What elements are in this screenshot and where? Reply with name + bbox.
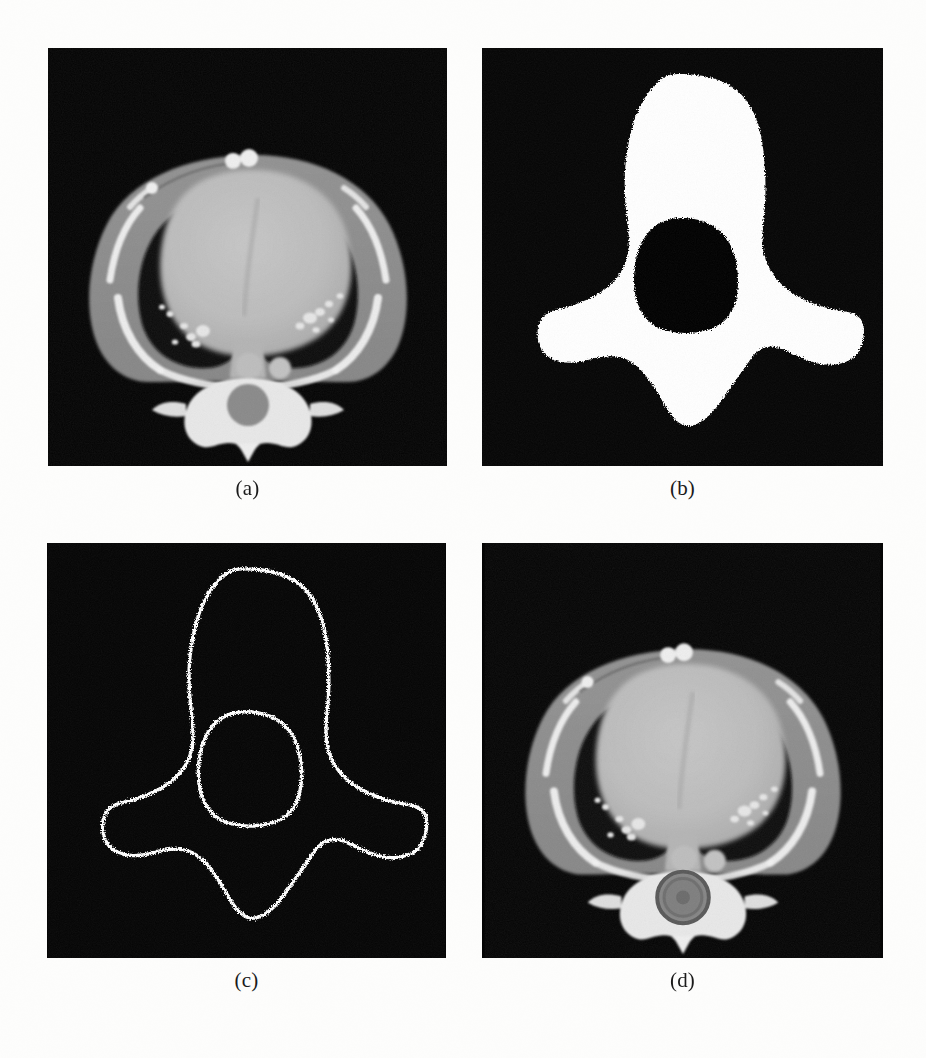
panel-c-caption: (c) [47,968,446,993]
panel-grid: (a) [0,0,926,1058]
ct-slice-overlay-image [482,543,883,958]
figure-sheet: (a) [0,0,926,1058]
figure-panel-a: (a) [48,48,447,513]
panel-a-caption: (a) [48,476,447,501]
boundary-contour-image [47,543,446,958]
ct-slice-original-image [48,48,447,466]
figure-panel-c: (c) [47,543,446,1005]
figure-panel-d: (d) [482,543,883,1005]
figure-panel-b: (b) [482,48,883,513]
panel-b-caption: (b) [482,476,883,501]
binary-mask-image [482,48,883,466]
panel-d-caption: (d) [482,968,883,993]
